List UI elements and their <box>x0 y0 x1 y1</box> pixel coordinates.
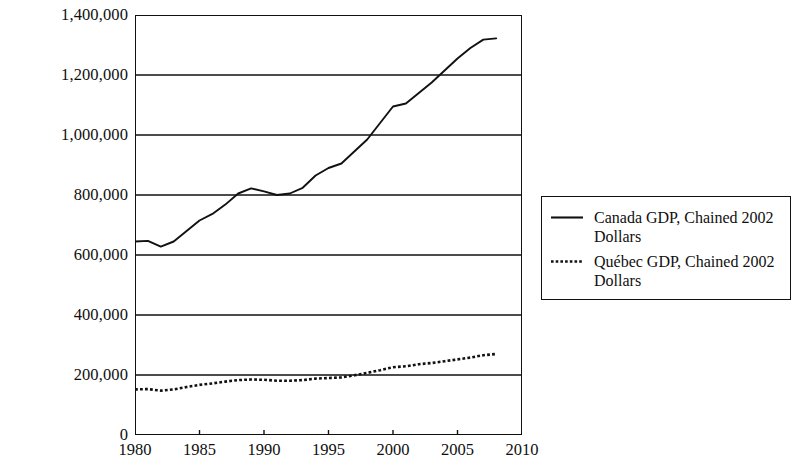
gdp-line-chart: 0200,000400,000600,000800,0001,000,0001,… <box>0 0 796 462</box>
x-axis: 1980198519901995200020052010 <box>0 440 796 462</box>
y-axis: 0200,000400,000600,000800,0001,000,0001,… <box>0 0 128 462</box>
y-tick-label: 1,400,000 <box>0 7 128 24</box>
series-line-quebec <box>135 354 496 391</box>
series-line-canada <box>135 38 496 246</box>
gridlines <box>135 75 522 435</box>
series-layer <box>135 15 522 435</box>
y-tick-label: 200,000 <box>0 367 128 384</box>
y-tick-label: 800,000 <box>0 187 128 204</box>
y-tick-label: 600,000 <box>0 247 128 264</box>
legend-label-canada: Canada GDP, Chained 2002 Dollars <box>594 208 784 246</box>
legend-item-canada: Canada GDP, Chained 2002 Dollars <box>550 208 784 246</box>
y-tick-label: 1,200,000 <box>0 67 128 84</box>
plot-area <box>135 15 522 435</box>
x-tick-label: 2010 <box>482 440 562 460</box>
y-tick-label: 400,000 <box>0 307 128 324</box>
legend: Canada GDP, Chained 2002 Dollars Québec … <box>541 196 791 300</box>
legend-label-quebec: Québec GDP, Chained 2002 Dollars <box>594 252 784 290</box>
dotted-line-icon <box>550 253 584 270</box>
legend-item-quebec: Québec GDP, Chained 2002 Dollars <box>550 252 784 290</box>
solid-line-icon <box>550 209 584 226</box>
y-tick-label: 1,000,000 <box>0 127 128 144</box>
